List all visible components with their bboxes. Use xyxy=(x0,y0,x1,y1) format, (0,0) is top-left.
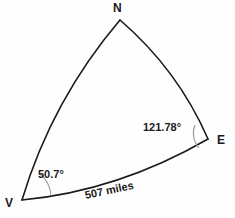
edge-v-to-n xyxy=(22,20,120,200)
geometry-figure: N E V 50.7° 121.78° 507 miles xyxy=(0,0,235,218)
angle-label-v: 50.7° xyxy=(38,169,64,180)
angle-label-e: 121.78° xyxy=(143,122,181,133)
vertex-label-n: N xyxy=(113,2,122,14)
vertex-label-v: V xyxy=(5,197,13,209)
vertex-label-e: E xyxy=(217,134,225,146)
